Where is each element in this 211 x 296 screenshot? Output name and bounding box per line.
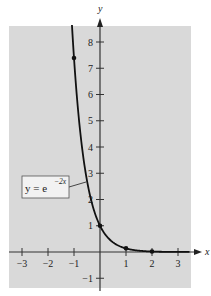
equation-exponent: −2x [54,177,67,186]
equation-base: y = e [25,182,47,194]
y-tick-label: 6 [88,89,93,100]
y-tick-label: 1 [88,220,93,231]
y-tick-label: 3 [88,168,93,179]
x-tick-label: 1 [124,258,129,269]
y-axis-arrow-icon [97,18,103,27]
data-point [98,223,103,228]
x-tick-label: 3 [176,258,181,269]
y-tick-label: 5 [88,115,93,126]
x-axis-arrow-icon [194,249,202,255]
x-tick-label: −1 [69,258,80,269]
x-axis-label: x [204,246,210,257]
x-tick-label: 2 [150,258,155,269]
data-point [124,246,129,251]
exponential-decay-chart: x y −3−2−1123 −112345678 y = e −2x [0,0,211,296]
x-tick-label: −2 [43,258,54,269]
data-point [72,56,77,61]
x-tick-label: −3 [17,258,28,269]
data-point [150,249,155,254]
y-tick-label: 8 [88,37,93,48]
y-tick-label: 7 [88,63,93,74]
y-tick-label: −1 [82,273,93,284]
y-tick-label: 4 [88,142,93,153]
y-axis-label: y [97,3,103,14]
